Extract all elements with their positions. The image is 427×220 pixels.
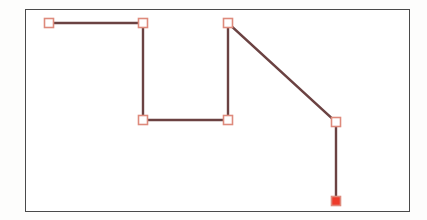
data-point-marker[interactable] xyxy=(332,197,341,206)
data-point-marker[interactable] xyxy=(45,19,54,28)
data-point-marker[interactable] xyxy=(139,116,148,125)
data-point-marker[interactable] xyxy=(224,19,233,28)
path-plot-canvas xyxy=(0,0,427,220)
marker-layer xyxy=(45,19,341,206)
series-line-path xyxy=(49,23,336,201)
data-point-marker[interactable] xyxy=(332,118,341,127)
data-point-marker[interactable] xyxy=(224,116,233,125)
screenshot-root xyxy=(0,0,427,220)
series-layer xyxy=(49,23,336,201)
data-point-marker[interactable] xyxy=(139,19,148,28)
